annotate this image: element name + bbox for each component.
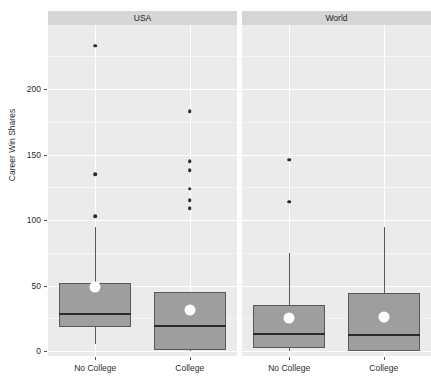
- y-tick-label: 100: [15, 215, 41, 225]
- mean-point[interactable]: [378, 311, 389, 322]
- y-tick-mark: [44, 351, 47, 352]
- x-tick-label: No College: [74, 363, 116, 373]
- outlier-point[interactable]: [188, 187, 192, 191]
- x-tick-mark: [289, 357, 290, 360]
- boxplot-group[interactable]: [48, 25, 237, 356]
- boxplot-group[interactable]: [242, 25, 431, 356]
- panel-strip-usa: USA: [48, 11, 237, 26]
- y-axis-title: Career Win Shares: [7, 85, 17, 205]
- y-tick-mark: [44, 286, 47, 287]
- median-line: [154, 325, 226, 327]
- outlier-point[interactable]: [188, 159, 192, 163]
- panel-strip-label: USA: [134, 13, 151, 23]
- boxplot-figure: Career Win Shares 050100150200 No Colleg…: [0, 0, 431, 386]
- outlier-point[interactable]: [188, 199, 192, 203]
- x-tick-mark: [95, 357, 96, 360]
- x-tick-label: College: [369, 363, 398, 373]
- x-tick-mark: [384, 357, 385, 360]
- y-tick-label: 50: [15, 281, 41, 291]
- y-tick-label: 200: [15, 84, 41, 94]
- y-tick-mark: [44, 155, 47, 156]
- outlier-point[interactable]: [188, 168, 192, 172]
- y-tick-mark: [44, 220, 47, 221]
- x-tick-mark: [190, 357, 191, 360]
- y-tick-mark: [44, 89, 47, 90]
- plot-panel-usa: [48, 25, 237, 356]
- panel-strip-world: World: [242, 11, 431, 26]
- plot-panel-world: [242, 25, 431, 356]
- whisker-upper: [384, 227, 385, 294]
- panel-strip-label: World: [325, 13, 347, 23]
- outlier-point[interactable]: [188, 109, 192, 113]
- mean-point[interactable]: [184, 305, 195, 316]
- y-tick-label: 0: [15, 346, 41, 356]
- box-iqr[interactable]: [154, 292, 226, 350]
- x-tick-label: College: [175, 363, 204, 373]
- y-tick-label: 150: [15, 150, 41, 160]
- outlier-point[interactable]: [188, 206, 192, 210]
- median-line: [348, 334, 420, 336]
- x-tick-label: No College: [268, 363, 310, 373]
- whisker-lower: [190, 350, 191, 351]
